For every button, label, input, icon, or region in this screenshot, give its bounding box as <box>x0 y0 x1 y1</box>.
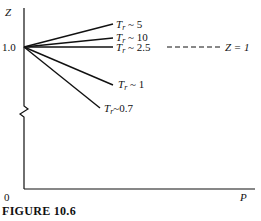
y-axis-label: Z <box>5 6 12 18</box>
y-tick-1.0: 1.0 <box>2 41 16 53</box>
origin-label: 0 <box>4 191 10 203</box>
label-tr-2.5: Tr ~ 2.5 <box>116 41 151 55</box>
label-tr-5: Tr ~ 5 <box>116 18 143 32</box>
label-tr-0.7: Tr~0.7 <box>104 102 133 116</box>
reference-line-label: Z = 1 <box>225 41 250 53</box>
x-axis-label: P <box>239 191 247 203</box>
z-axis <box>20 8 28 189</box>
line-tr-10 <box>24 38 113 47</box>
label-tr-1: Tr ~ 1 <box>118 78 144 92</box>
figure-caption: FIGURE 10.6 <box>2 204 76 219</box>
chart: Z 1.0 0 P Tr ~ 5 Tr ~ 10 Tr ~ 2.5 Tr ~ 1… <box>0 0 261 221</box>
line-tr-5 <box>24 24 113 47</box>
line-tr-1 <box>24 47 113 85</box>
line-tr-0.7 <box>24 47 100 108</box>
